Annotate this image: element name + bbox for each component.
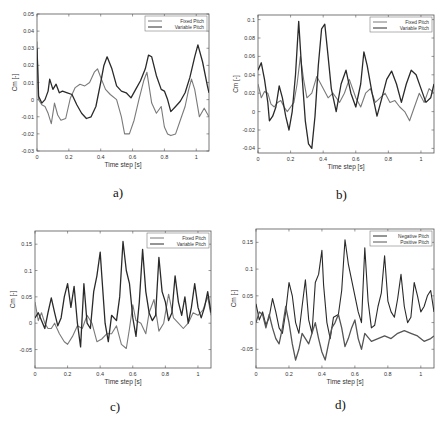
x-axis-label: Time step [s]: [105, 161, 142, 169]
x-tick-label: 0.6: [129, 371, 137, 377]
y-tick-label: 0.05: [23, 11, 34, 17]
x-tick-label: 0.6: [352, 156, 360, 162]
legend-entry: Fixed Pitch: [180, 19, 204, 24]
caption-b: b): [336, 187, 347, 203]
chart-a: -0.03-0.02-0.0100.010.020.030.040.0500.2…: [0, 0, 222, 190]
y-axis-label: Cm [-]: [9, 290, 17, 308]
chart-panel-a: -0.03-0.02-0.0100.010.020.030.040.0500.2…: [0, 0, 222, 210]
x-tick-label: 0.8: [384, 371, 392, 377]
y-tick-label: 0.05: [21, 294, 32, 300]
y-tick-label: -0.03: [21, 148, 34, 154]
legend-entry: Negative Pitch: [398, 234, 429, 239]
legend-entry: Fixed Pitch: [405, 20, 429, 25]
y-tick-label: -0.01: [21, 114, 34, 120]
y-tick-label: 0: [250, 320, 253, 326]
y-tick-label: 0.15: [242, 239, 253, 245]
y-tick-label: 0.05: [242, 293, 253, 299]
x-tick-label: 0: [35, 154, 38, 160]
x-tick-label: 0.2: [64, 371, 72, 377]
x-tick-label: 0.8: [385, 156, 393, 162]
y-tick-label: 0.06: [244, 53, 255, 59]
x-axis-label: Time step [s]: [328, 163, 365, 171]
y-tick-label: -0.05: [240, 346, 253, 352]
x-tick-label: 0.4: [97, 154, 105, 160]
y-tick-label: 0.15: [21, 241, 32, 247]
legend-entry: Variable Pitch: [175, 25, 205, 30]
plot-area: [37, 14, 209, 151]
legend-entry: Variable Pitch: [400, 26, 430, 31]
legend: Fixed PitchVariable Pitch: [145, 16, 207, 31]
y-tick-label: -0.02: [242, 127, 255, 133]
caption-d: d): [335, 397, 346, 413]
y-tick-label: 0.1: [245, 266, 253, 272]
y-tick-label: -0.04: [242, 145, 255, 151]
x-tick-label: 1: [419, 371, 422, 377]
x-axis-label: Time step [s]: [105, 378, 142, 386]
y-axis-label: Cm [-]: [232, 75, 240, 93]
x-tick-label: 0: [254, 371, 257, 377]
y-tick-label: 0.1: [24, 268, 32, 274]
x-tick-label: 0.6: [351, 371, 359, 377]
x-tick-label: 0.2: [287, 156, 295, 162]
x-tick-label: 0.8: [162, 371, 170, 377]
chart-panel-b: -0.04-0.0200.020.040.060.080.100.20.40.6…: [222, 0, 444, 210]
legend-entry: Fixed Pitch: [182, 236, 206, 241]
y-tick-label: 0.02: [23, 62, 34, 68]
x-tick-label: 0.4: [96, 371, 104, 377]
plot-area: [258, 15, 434, 153]
caption-c: c): [110, 399, 120, 415]
chart-d: -0.0500.050.10.1500.20.40.60.81Time step…: [222, 210, 444, 405]
y-tick-label: 0: [252, 109, 255, 115]
legend-entry: Positive Pitch: [400, 240, 429, 245]
x-tick-label: 1: [196, 371, 199, 377]
y-tick-label: 0.01: [23, 80, 34, 86]
x-tick-label: 0.8: [161, 154, 169, 160]
y-tick-label: 0: [29, 320, 32, 326]
x-tick-label: 1: [419, 156, 422, 162]
x-tick-label: 0.4: [318, 371, 326, 377]
y-tick-label: 0.04: [23, 28, 34, 34]
x-tick-label: 0: [256, 156, 259, 162]
chart-panel-c: -0.0500.050.10.1500.20.40.60.81Time step…: [0, 210, 222, 427]
x-tick-label: 0: [33, 371, 36, 377]
y-tick-label: 0.08: [244, 35, 255, 41]
x-tick-label: 0.4: [319, 156, 327, 162]
y-tick-label: 0.04: [244, 72, 255, 78]
y-tick-label: -0.05: [19, 347, 32, 353]
y-tick-label: 0.03: [23, 45, 34, 51]
x-tick-label: 0.2: [285, 371, 293, 377]
y-tick-label: -0.02: [21, 131, 34, 137]
y-axis-label: Cm [-]: [11, 73, 19, 91]
x-tick-label: 1: [195, 154, 198, 160]
caption-a: a): [113, 185, 123, 201]
chart-panel-d: -0.0500.050.10.1500.20.40.60.81Time step…: [222, 210, 444, 427]
x-tick-label: 0.6: [129, 154, 137, 160]
legend-entry: Variable Pitch: [177, 242, 207, 247]
legend: Fixed PitchVariable Pitch: [370, 17, 432, 32]
chart-b: -0.04-0.0200.020.040.060.080.100.20.40.6…: [222, 0, 444, 190]
x-tick-label: 0.2: [65, 154, 73, 160]
y-axis-label: Cm [-]: [230, 289, 238, 307]
chart-c: -0.0500.050.10.1500.20.40.60.81Time step…: [0, 210, 222, 405]
legend: Fixed PitchVariable Pitch: [147, 233, 209, 248]
y-tick-label: 0.02: [244, 90, 255, 96]
legend: Negative PitchPositive Pitch: [370, 231, 432, 246]
y-tick-label: 0: [31, 97, 34, 103]
y-tick-label: 0.1: [247, 17, 255, 23]
x-axis-label: Time step [s]: [327, 378, 364, 386]
